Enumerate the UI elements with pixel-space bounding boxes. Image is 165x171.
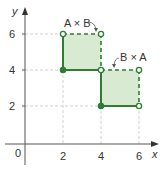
region-a-cross-b xyxy=(63,34,101,70)
x-axis-arrow-icon xyxy=(151,141,159,147)
x-tick-label-2: 2 xyxy=(60,150,66,162)
label-b-cross-a-pointer-icon xyxy=(114,58,119,65)
y-axis-label: y xyxy=(11,5,19,17)
open-point-2-6 xyxy=(60,31,65,36)
label-b-cross-a: B × A xyxy=(120,51,147,63)
region-b-cross-a-fill xyxy=(101,70,139,106)
closed-point-2-4 xyxy=(60,67,65,72)
x-tick-label-6: 6 xyxy=(136,150,142,162)
open-point-4-6 xyxy=(98,31,103,36)
y-tick-label-2: 2 xyxy=(9,100,15,112)
label-a-cross-b-pointer-head-icon xyxy=(94,28,98,32)
region-b-cross-a xyxy=(101,70,139,106)
region-a-cross-b-fill xyxy=(63,34,101,70)
open-point-6-2 xyxy=(136,103,141,108)
open-point-4-4 xyxy=(98,67,103,72)
x-axis-label: x xyxy=(151,148,158,160)
x-tick-label-4: 4 xyxy=(98,150,104,162)
label-a-cross-b: A × B xyxy=(64,17,91,29)
cartesian-diagram: y x 0 6 4 2 2 4 6 A × B B × A xyxy=(0,0,165,171)
y-tick-label-4: 4 xyxy=(9,64,15,76)
y-tick-label-6: 6 xyxy=(9,28,15,40)
open-point-6-4 xyxy=(136,67,141,72)
closed-point-4-2 xyxy=(98,103,103,108)
origin-label: 0 xyxy=(15,147,21,159)
label-b-cross-a-pointer-head-icon xyxy=(112,64,116,68)
y-axis-arrow-icon xyxy=(22,7,28,15)
